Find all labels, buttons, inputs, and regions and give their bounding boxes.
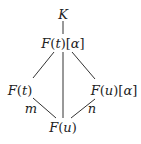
node-Fu: F(u) — [49, 121, 77, 134]
node-Ft-alpha: F(t)[α] — [41, 37, 84, 50]
node-K: K — [58, 8, 68, 21]
edge-Ft-alpha-Fu-alpha — [72, 52, 95, 79]
edge-label-m: m — [25, 102, 37, 115]
field-lattice-diagram: K F(t)[α] F(t) F(u)[α] F(u) m n — [0, 0, 141, 144]
node-Ft: F(t) — [8, 84, 32, 97]
edge-label-n: n — [88, 102, 96, 115]
edge-Ft-alpha-Ft — [33, 52, 54, 78]
node-Fu-alpha: F(u)[α] — [91, 84, 138, 97]
